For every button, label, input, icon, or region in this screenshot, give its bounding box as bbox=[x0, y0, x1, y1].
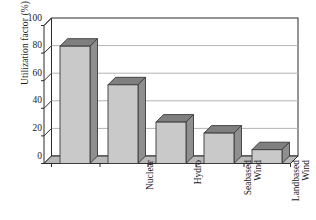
x-tick-label-hydro: Hydro bbox=[194, 160, 204, 220]
x-tick-label-nuclear: Nuclear bbox=[146, 160, 156, 220]
x-tick-label-landbased-wind: Landbased Wind bbox=[292, 160, 311, 220]
x-tick-label-seabased-wind: Seabased Wind bbox=[244, 160, 263, 220]
chart-container: Utilization factor (%) 100 80 60 40 20 0 bbox=[0, 0, 316, 220]
x-axis-tick-labels: Nuclear Hydro Seabased Wind Landbased Wi… bbox=[0, 0, 316, 220]
